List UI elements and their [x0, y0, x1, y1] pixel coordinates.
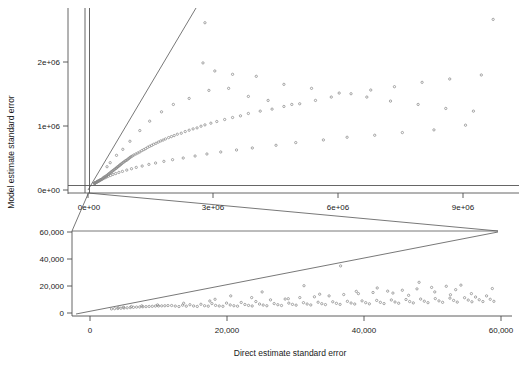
scatter-point — [189, 304, 191, 306]
scatter-point — [295, 304, 297, 306]
scatter-point — [161, 305, 163, 307]
scatter-point — [183, 302, 185, 304]
scatter-point — [109, 162, 111, 164]
scatter-point — [196, 127, 198, 129]
scatter-point — [390, 299, 392, 301]
scatter-point — [401, 289, 403, 291]
scatter-point — [449, 294, 451, 296]
scatter-point — [295, 141, 297, 143]
scatter-point — [174, 305, 176, 307]
scatter-point — [160, 140, 162, 142]
scatter-point — [204, 22, 206, 24]
scatter-point — [383, 302, 385, 304]
scatter-point — [464, 124, 466, 126]
scatter-point — [368, 303, 370, 305]
scatter-point — [170, 135, 172, 137]
main-xtick-label-2: 6e+06 — [327, 203, 350, 212]
scatter-point — [480, 74, 482, 76]
scatter-point — [471, 301, 473, 303]
scatter-point — [302, 302, 304, 304]
scatter-point — [339, 265, 341, 267]
scatter-point — [417, 103, 419, 105]
scatter-point — [387, 290, 389, 292]
scatter-point — [145, 305, 147, 307]
inset-x-ticks — [90, 316, 501, 321]
scatter-point — [222, 305, 224, 307]
scatter-point — [164, 138, 166, 140]
scatter-point — [339, 303, 341, 305]
scatter-point — [449, 297, 451, 299]
scatter-point — [266, 305, 268, 307]
scatter-point — [251, 305, 253, 307]
main-identity-reference-line — [88, 8, 196, 190]
scatter-point — [227, 87, 229, 89]
main-scatter-points — [93, 18, 494, 184]
scatter-point — [319, 293, 321, 295]
scatter-point — [324, 303, 326, 305]
scatter-point — [452, 299, 454, 301]
inset-ytick-label-1: 20,000 — [40, 282, 65, 291]
scatter-point — [434, 297, 436, 299]
scatter-point — [261, 291, 263, 293]
scatter-point — [485, 295, 487, 297]
scatter-point — [148, 305, 150, 307]
scatter-point — [214, 298, 216, 300]
scatter-point — [389, 100, 391, 102]
scatter-point — [206, 153, 208, 155]
scatter-point — [492, 18, 494, 20]
scatter-point — [154, 162, 156, 164]
scatter-point — [493, 300, 495, 302]
inset-xtick-label-1: 20,000 — [215, 326, 240, 335]
scatter-point — [152, 143, 154, 145]
scatter-point — [376, 287, 378, 289]
scatter-point — [172, 103, 174, 105]
scatter-point — [247, 112, 249, 114]
scatter-point — [247, 304, 249, 306]
scatter-point — [155, 142, 157, 144]
scatter-point — [182, 157, 184, 159]
scatter-point — [244, 303, 246, 305]
scatter-point — [229, 304, 231, 306]
scatter-point — [236, 305, 238, 307]
scatter-point — [240, 301, 242, 303]
scatter-point — [491, 287, 493, 289]
scatter-point — [313, 296, 315, 298]
scatter-point — [151, 305, 153, 307]
scatter-point — [354, 303, 356, 305]
scatter-point — [338, 92, 340, 94]
scatter-point — [178, 305, 180, 307]
inset-ytick-label-3: 60,000 — [40, 228, 65, 237]
scatter-point — [171, 159, 173, 161]
scatter-point — [321, 303, 323, 305]
scatter-point — [419, 298, 421, 300]
scatter-point — [288, 302, 290, 304]
inset-scatter-points — [110, 265, 495, 310]
scatter-point — [314, 99, 316, 101]
scatter-point — [180, 132, 182, 134]
scatter-point — [365, 302, 367, 304]
scatter-point — [251, 296, 253, 298]
scatter-point — [185, 305, 187, 307]
scatter-point — [110, 308, 112, 310]
scatter-point — [346, 300, 348, 302]
scatter-point — [416, 288, 418, 290]
scatter-point — [306, 303, 308, 305]
zoom-leader-upper — [88, 193, 498, 231]
scatter-point — [379, 301, 381, 303]
scatter-point — [135, 306, 137, 308]
scatter-point — [204, 124, 206, 126]
scatter-point — [472, 110, 474, 112]
scatter-point — [224, 118, 226, 120]
scatter-point — [445, 285, 447, 287]
scatter-point — [115, 172, 117, 174]
scatter-point — [343, 293, 345, 295]
inset-y-ticks — [67, 232, 72, 313]
scatter-point — [310, 304, 312, 306]
scatter-point — [141, 165, 143, 167]
scatter-point — [259, 110, 261, 112]
scatter-point — [280, 304, 282, 306]
scatter-point — [207, 305, 209, 307]
scatter-point — [418, 281, 420, 283]
scatter-point — [162, 139, 164, 141]
scatter-point — [438, 300, 440, 302]
